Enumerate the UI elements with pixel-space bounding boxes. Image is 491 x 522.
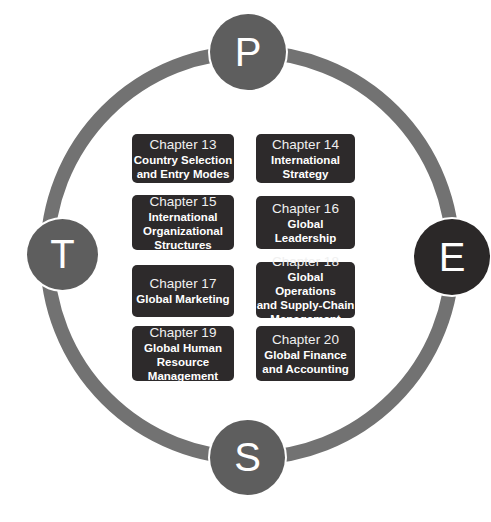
chapter-17-box: Chapter 17 Global Marketing bbox=[132, 265, 234, 317]
chapter-title-line: and Accounting bbox=[262, 362, 348, 376]
chapter-title-line: Global Finance bbox=[264, 348, 346, 362]
chapter-title-line: Organizational bbox=[143, 224, 223, 238]
chapter-title-line: Global Leadership bbox=[256, 217, 355, 245]
chapter-title-line: International bbox=[148, 210, 217, 224]
chapter-title-line: and Supply-Chain bbox=[257, 298, 355, 312]
node-t: T bbox=[27, 219, 98, 290]
chapter-13-box: Chapter 13 Country Selection and Entry M… bbox=[132, 134, 234, 183]
chapter-title-line: Structures bbox=[154, 238, 212, 252]
chapter-number: Chapter 17 bbox=[150, 276, 217, 292]
chapter-title-line: Management bbox=[148, 369, 218, 383]
node-p-letter: P bbox=[235, 30, 262, 75]
chapter-14-box: Chapter 14 International Strategy bbox=[256, 134, 355, 183]
chapter-title-line: Country Selection bbox=[134, 153, 232, 167]
chapter-number: Chapter 14 bbox=[272, 137, 339, 153]
chapter-15-box: Chapter 15 International Organizational … bbox=[132, 195, 234, 250]
chapter-title-line: Management bbox=[270, 312, 340, 326]
node-t-letter: T bbox=[50, 232, 74, 277]
chapter-number: Chapter 15 bbox=[150, 194, 217, 210]
node-e: E bbox=[414, 219, 490, 295]
chapter-20-box: Chapter 20 Global Finance and Accounting bbox=[256, 326, 355, 381]
chapter-title-line: Global Marketing bbox=[136, 292, 229, 306]
chapter-title-line: Resource bbox=[157, 355, 209, 369]
chapter-title-line: and Entry Modes bbox=[137, 167, 230, 181]
chapter-title-line: Strategy bbox=[282, 167, 328, 181]
node-s-letter: S bbox=[234, 435, 261, 480]
chapter-number: Chapter 19 bbox=[150, 325, 217, 341]
chapter-number: Chapter 13 bbox=[150, 137, 217, 153]
chapter-title-line: Global Human bbox=[144, 341, 222, 355]
chapter-19-box: Chapter 19 Global Human Resource Managem… bbox=[132, 326, 234, 381]
chapter-number: Chapter 20 bbox=[272, 332, 339, 348]
chapter-number: Chapter 18 bbox=[272, 254, 339, 270]
chapter-16-box: Chapter 16 Global Leadership bbox=[256, 196, 355, 249]
node-p: P bbox=[210, 14, 286, 90]
chapter-title-line: International bbox=[271, 153, 340, 167]
chapter-number: Chapter 16 bbox=[272, 201, 339, 217]
node-s: S bbox=[210, 420, 285, 495]
chapter-title-line: Global Operations bbox=[256, 270, 355, 298]
node-e-letter: E bbox=[439, 235, 466, 280]
chapter-18-box: Chapter 18 Global Operations and Supply-… bbox=[256, 262, 355, 318]
